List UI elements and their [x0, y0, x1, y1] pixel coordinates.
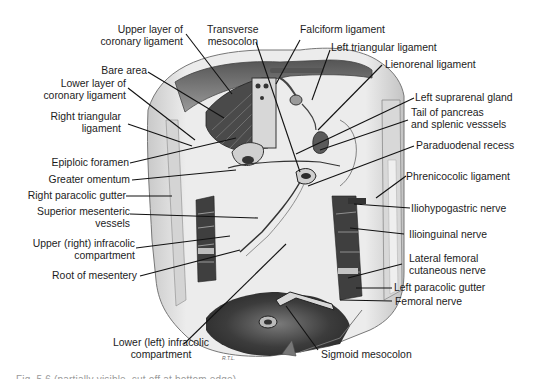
label-line: Superior mesenteric — [37, 206, 130, 218]
label-line: Tail of pancreas — [411, 107, 506, 119]
label-line: coronary ligament — [100, 36, 183, 48]
label-bare-area: Bare area — [101, 65, 147, 77]
label-line: Upper layer of — [100, 24, 183, 36]
label-line: compartment — [33, 250, 135, 262]
label-falciform-ligament: Falciform ligament — [300, 24, 385, 36]
label-line: and splenic vesssels — [411, 119, 506, 131]
label-upper-layer-coronary: Upper layer of coronary ligament — [100, 24, 183, 48]
label-greater-omentum: Greater omentum — [49, 174, 130, 186]
label-tail-of-pancreas: Tail of pancreas and splenic vesssels — [411, 107, 506, 131]
label-transverse-mesocolon: Transverse mesocolon — [207, 24, 259, 48]
label-line: Transverse — [207, 24, 259, 36]
label-line: Lower layer of — [43, 78, 126, 90]
left-triangular-ligament-shape — [270, 68, 324, 73]
label-left-triangular-ligament: Left triangular ligament — [331, 42, 437, 54]
label-line: compartment — [109, 349, 213, 361]
label-ilioinguinal-nerve: Ilioinguinal nerve — [409, 229, 487, 241]
anatomical-figure: Upper layer of coronary ligament Bare ar… — [0, 0, 539, 381]
label-line: Right triangular — [51, 111, 121, 123]
label-paraduodenal-recess: Paraduodenal recess — [416, 140, 514, 152]
label-left-suprarenal-gland: Left suprarenal gland — [415, 92, 513, 104]
label-line: Lower (left) infracolic — [109, 337, 213, 349]
label-phrenicocolic-ligament: Phrenicocolic ligament — [406, 171, 510, 183]
label-lienorenal-ligament: Lienorenal ligament — [385, 59, 476, 71]
label-epiploic-foramen: Epiploic foramen — [52, 157, 129, 169]
label-line: cutaneous nerve — [409, 265, 486, 277]
artist-signature: R.T.L. — [222, 355, 235, 361]
label-line: vessels — [37, 218, 130, 230]
label-line: mesocolon — [207, 36, 259, 48]
label-sigmoid-mesocolon: Sigmoid mesocolon — [321, 349, 412, 361]
label-root-of-mesentery: Root of mesentery — [52, 270, 137, 282]
label-line: Upper (right) infracolic — [33, 238, 135, 250]
label-lower-infracolic-compartment: Lower (left) infracolic compartment — [109, 337, 213, 361]
label-right-triangular: Right triangular ligament — [51, 111, 121, 135]
label-iliohypogastric-nerve: Iliohypogastric nerve — [411, 203, 506, 215]
label-lower-layer-coronary: Lower layer of coronary ligament — [43, 78, 126, 102]
label-superior-mesenteric-vessels: Superior mesenteric vessels — [37, 206, 130, 230]
label-right-paracolic-gutter: Right paracolic gutter — [28, 190, 126, 202]
label-left-paracolic-gutter: Left paracolic gutter — [394, 282, 485, 294]
label-upper-infracolic-compartment: Upper (right) infracolic compartment — [33, 238, 135, 262]
label-lateral-femoral-cutaneous-nerve: Lateral femoral cutaneous nerve — [409, 253, 486, 277]
figure-caption-partial: Fig. 5.6 (partially visible, cut off at … — [16, 373, 236, 379]
label-line: coronary ligament — [43, 90, 126, 102]
label-femoral-nerve: Femoral nerve — [395, 296, 462, 308]
label-line: ligament — [51, 123, 121, 135]
label-line: Lateral femoral — [409, 253, 486, 265]
